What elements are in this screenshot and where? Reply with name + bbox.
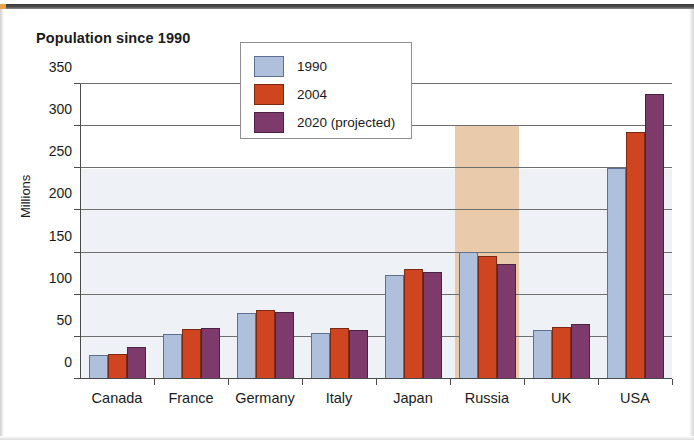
bar [478, 256, 497, 379]
y-axis-tick-label: 0 [28, 354, 72, 370]
bar [163, 334, 182, 380]
page-right-edge [689, 9, 694, 440]
legend-swatch-2020 [254, 112, 284, 133]
y-axis-tick-label: 100 [28, 270, 72, 286]
y-axis-tick [74, 209, 80, 210]
y-axis-tick-labels: 050100150200250300350 [28, 84, 72, 379]
bar [108, 354, 127, 379]
bar [404, 269, 423, 379]
gridline [80, 167, 672, 168]
bar [256, 310, 275, 379]
bar-group [237, 310, 294, 379]
x-axis-tick-label: UK [524, 390, 598, 406]
bar-group [163, 328, 220, 379]
y-axis-tick-label: 350 [28, 59, 72, 75]
y-axis-tick-label: 150 [28, 228, 72, 244]
y-axis-tick-label: 250 [28, 143, 72, 159]
bar [571, 324, 590, 379]
y-axis-tick [74, 336, 80, 337]
gridline [80, 252, 672, 253]
chart-title: Population since 1990 [36, 30, 190, 46]
x-axis-tick [450, 379, 451, 385]
bar [330, 328, 349, 379]
x-axis-tick-label: Germany [228, 390, 302, 406]
legend-item: 2020 (projected) [254, 108, 411, 136]
y-axis-tick [74, 378, 80, 379]
x-axis-tick-label: USA [598, 390, 672, 406]
y-axis-tick [74, 294, 80, 295]
bar [459, 252, 478, 379]
bar [423, 272, 442, 379]
page-bottom-edge [0, 436, 694, 440]
bar [385, 275, 404, 380]
x-axis-tick-label: Italy [302, 390, 376, 406]
bar-group [89, 347, 146, 379]
x-axis-tick-label: Japan [376, 390, 450, 406]
y-axis-tick-label: 200 [28, 185, 72, 201]
bar [201, 328, 220, 379]
x-axis-tick [302, 379, 303, 385]
bar [552, 327, 571, 379]
x-axis-tick-label: France [154, 390, 228, 406]
x-axis-tick-labels: CanadaFranceGermanyItalyJapanRussiaUKUSA [80, 390, 672, 414]
chart-legend: 199020042020 (projected) [240, 42, 412, 139]
gridline [80, 209, 672, 210]
x-axis-tick [376, 379, 377, 385]
bar [127, 347, 146, 379]
y-axis-tick [74, 252, 80, 253]
bar-group [459, 252, 516, 379]
legend-item: 1990 [254, 52, 411, 80]
bar [275, 312, 294, 379]
x-axis-tick [228, 379, 229, 385]
bar [626, 132, 645, 379]
bar [182, 329, 201, 379]
legend-item-label: 2004 [297, 87, 327, 102]
bar [311, 333, 330, 379]
legend-item: 2004 [254, 80, 411, 108]
x-axis-tick [672, 379, 673, 385]
x-axis-tick [598, 379, 599, 385]
bar-group [533, 324, 590, 379]
y-axis-tick [74, 125, 80, 126]
gridline [80, 294, 672, 295]
y-axis-tick [74, 83, 80, 84]
bar-group [311, 328, 368, 379]
bar-group [607, 94, 664, 379]
y-axis-tick-label: 50 [28, 312, 72, 328]
x-axis-tick [524, 379, 525, 385]
bar [349, 330, 368, 379]
x-axis-tick [154, 379, 155, 385]
y-axis-line [80, 84, 81, 379]
y-axis-tick-label: 300 [28, 101, 72, 117]
bar [533, 330, 552, 379]
legend-item-label: 1990 [297, 59, 327, 74]
bar [607, 168, 626, 379]
x-axis-line [80, 378, 672, 379]
bar [645, 94, 664, 379]
bar-group [385, 269, 442, 379]
x-axis-tick-label: Russia [450, 390, 524, 406]
x-axis-tick-label: Canada [80, 390, 154, 406]
bar [497, 264, 516, 379]
legend-swatch-1990 [254, 56, 284, 77]
legend-item-label: 2020 (projected) [297, 115, 395, 130]
y-axis-tick [74, 167, 80, 168]
page-left-edge [0, 9, 4, 440]
bar [89, 355, 108, 379]
page-top-rule [0, 4, 694, 9]
bar [237, 313, 256, 379]
legend-swatch-2004 [254, 84, 284, 105]
